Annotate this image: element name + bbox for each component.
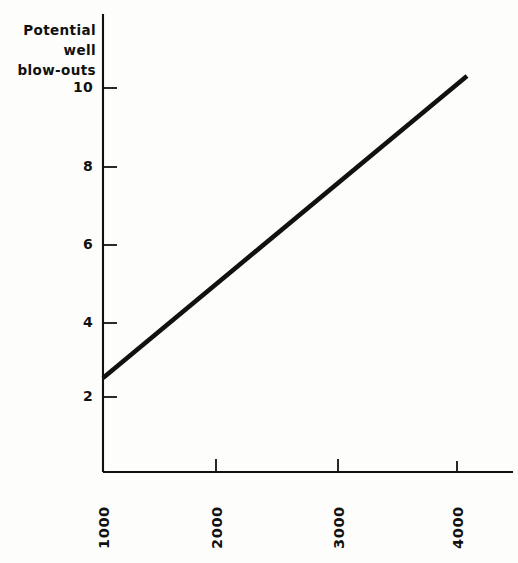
x-tick-label-1000: 1000 xyxy=(96,506,112,549)
y-tick-label-10: 10 xyxy=(67,79,93,95)
x-tick-label-2000: 2000 xyxy=(209,506,225,549)
y-tick-label-8: 8 xyxy=(67,158,93,174)
data-line-series-1 xyxy=(103,76,467,378)
x-tick-label-4000: 4000 xyxy=(450,506,466,549)
chart-canvas: Potential well blow-outs 10 8 6 4 2 1000 xyxy=(0,0,518,563)
x-tick-label-3000: 3000 xyxy=(331,506,347,549)
x-axis-ticks xyxy=(216,459,457,471)
y-tick-label-4: 4 xyxy=(67,314,93,330)
y-tick-label-6: 6 xyxy=(67,236,93,252)
y-axis-ticks xyxy=(104,88,117,397)
y-tick-label-2: 2 xyxy=(67,388,93,404)
